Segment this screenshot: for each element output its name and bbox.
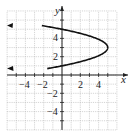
- x-tick-2: 2: [78, 79, 83, 90]
- x-tick-4: 4: [96, 79, 101, 90]
- y-tick-neg4: −4: [47, 106, 58, 117]
- y-tick-4: 4: [53, 32, 58, 43]
- axis-labels: y x −4 −2 2 4 4 2 −2 −4: [19, 4, 126, 117]
- y-tick-2: 2: [53, 51, 58, 62]
- y-tick-neg2: −2: [47, 88, 58, 99]
- arrow-head-lower: [7, 66, 14, 71]
- x-axis-label: x: [120, 73, 126, 85]
- x-tick-neg4: −4: [19, 79, 30, 90]
- arrow-head-upper: [7, 23, 13, 28]
- y-axis-label: y: [54, 4, 60, 16]
- parabola-curve: [7, 23, 108, 71]
- coordinate-plane: y x −4 −2 2 4 4 2 −2 −4: [0, 0, 136, 139]
